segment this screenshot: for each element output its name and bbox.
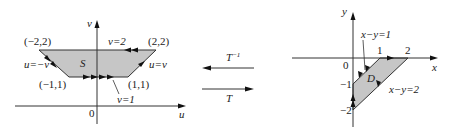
boundary-label-u-neg-v: u=−v bbox=[24, 58, 49, 70]
uv-plane: v u 0 S (−2,2) (2,2) (−1,1) (1,1) v=2 u=… bbox=[15, 17, 186, 124]
vertex-label-neg2-2: (−2,2) bbox=[24, 35, 52, 48]
v-axis-label: v bbox=[87, 17, 92, 29]
vertex-label-neg1-1: (−1,1) bbox=[39, 78, 67, 91]
v-axis-arrowhead-icon bbox=[95, 20, 100, 28]
tick-label-x1: 1 bbox=[377, 44, 383, 56]
origin-label-xy: 0 bbox=[343, 59, 349, 71]
leader-v1 bbox=[113, 80, 119, 94]
x-axis-arrowhead-icon bbox=[430, 56, 438, 61]
leader-x-y-1 bbox=[363, 40, 365, 70]
tick-label-y-neg2: −2 bbox=[340, 104, 352, 116]
left-arrowhead-icon bbox=[202, 66, 211, 71]
boundary-label-v1: v=1 bbox=[117, 93, 135, 105]
transform-arrows: T−1 T bbox=[202, 51, 254, 104]
region-label-s: S bbox=[80, 57, 86, 69]
u-axis-label: u bbox=[179, 108, 185, 120]
region-label-d: D bbox=[366, 72, 375, 84]
y-axis-arrowhead-icon bbox=[351, 12, 356, 20]
boundary-label-x-y-1: x−y=1 bbox=[360, 28, 391, 40]
origin-label-uv: 0 bbox=[89, 107, 95, 119]
forward-transform-label: T bbox=[226, 92, 233, 104]
boundary-label-u-v: u=v bbox=[149, 58, 167, 70]
x-axis-label: x bbox=[431, 61, 437, 73]
transformation-diagram: v u 0 S (−2,2) (2,2) (−1,1) (1,1) v=2 u=… bbox=[0, 0, 451, 134]
boundary-label-v2: v=2 bbox=[108, 35, 126, 47]
xy-plane: y x 0 D 1 2 −1 −2 x−y=1 x−y=2 bbox=[292, 5, 438, 127]
right-arrowhead-icon bbox=[245, 87, 254, 92]
vertex-label-2-2: (2,2) bbox=[148, 35, 169, 48]
boundary-label-x-y-2: x−y=2 bbox=[388, 83, 420, 95]
inverse-transform-label: T−1 bbox=[226, 51, 240, 63]
y-axis-label: y bbox=[341, 5, 347, 17]
tick-label-x2: 2 bbox=[405, 44, 411, 56]
vertex-label-1-1: (1,1) bbox=[128, 78, 149, 91]
tick-label-y-neg1: −1 bbox=[340, 78, 352, 90]
